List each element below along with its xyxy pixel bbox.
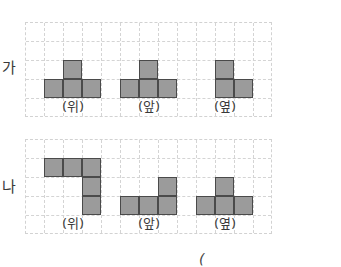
block-cell — [82, 177, 101, 196]
row-label-ga: 가 — [2, 61, 16, 76]
label-ga-front: (앞) — [138, 100, 160, 114]
block-cell — [215, 79, 234, 98]
answer-paren: ( — [199, 251, 204, 267]
block-cell — [44, 79, 63, 98]
block-cell — [82, 196, 101, 215]
label-na-front: (앞) — [138, 217, 160, 231]
block-cell — [63, 158, 82, 177]
grid-line — [177, 140, 178, 233]
grid-line — [44, 140, 45, 233]
block-cell — [139, 60, 158, 79]
block-cell — [234, 79, 253, 98]
row-label-na: 나 — [2, 180, 16, 195]
block-cell — [215, 196, 234, 215]
grid-line — [253, 140, 254, 233]
block-cell — [215, 177, 234, 196]
block-cell — [82, 158, 101, 177]
block-cell — [158, 79, 177, 98]
block-cell — [215, 60, 234, 79]
block-cell — [158, 196, 177, 215]
block-cell — [120, 196, 139, 215]
block-cell — [82, 79, 101, 98]
grid-line — [26, 177, 271, 178]
label-na-top: (위) — [62, 217, 84, 231]
grid-line — [44, 23, 45, 116]
block-cell — [63, 60, 82, 79]
label-ga-top: (위) — [62, 100, 84, 114]
label-na-side: (옆) — [214, 217, 236, 231]
block-cell — [234, 196, 253, 215]
block-cell — [44, 158, 63, 177]
grid-line — [177, 23, 178, 116]
grid-line — [120, 140, 121, 233]
label-ga-side: (옆) — [214, 100, 236, 114]
block-cell — [196, 196, 215, 215]
grid-line — [101, 140, 102, 233]
block-cell — [158, 177, 177, 196]
block-cell — [139, 196, 158, 215]
block-cell — [63, 79, 82, 98]
block-cell — [139, 79, 158, 98]
grid-line — [196, 23, 197, 116]
block-cell — [120, 79, 139, 98]
grid-line — [120, 23, 121, 116]
grid-line — [196, 140, 197, 233]
grid-line — [26, 41, 271, 42]
grid-line — [101, 23, 102, 116]
grid-line — [253, 23, 254, 116]
